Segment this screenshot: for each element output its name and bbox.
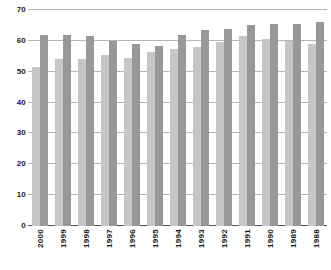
bar-series-2-1989 xyxy=(293,24,301,226)
x-tick-cell: 1989 xyxy=(281,229,304,270)
bar-group xyxy=(235,10,258,226)
x-tick-label: 1992 xyxy=(219,229,228,248)
bar-series-1-1992 xyxy=(216,42,224,226)
bar-series-2-1992 xyxy=(224,29,232,226)
y-tick-label: 60 xyxy=(2,37,26,45)
bar-group xyxy=(97,10,120,226)
y-tick-label: 30 xyxy=(2,129,26,137)
y-tick-label: 40 xyxy=(2,99,26,107)
x-tick-cell: 1988 xyxy=(304,229,327,270)
bar-series-1-1998 xyxy=(78,59,86,226)
bar-series-2-1991 xyxy=(247,25,255,226)
bar-group xyxy=(258,10,281,226)
x-tick-cell: 1999 xyxy=(51,229,74,270)
bar-series-1-1996 xyxy=(124,58,132,226)
x-tick-label: 1998 xyxy=(81,229,90,248)
bar-chart: 010203040506070 200019991998199719961995… xyxy=(0,0,331,270)
bar-series-2-1995 xyxy=(155,46,163,227)
bar-group xyxy=(166,10,189,226)
x-tick-cell: 1994 xyxy=(166,229,189,270)
bar-group xyxy=(28,10,51,226)
x-tick-cell: 1995 xyxy=(143,229,166,270)
y-tick-label: 20 xyxy=(2,160,26,168)
plot-area xyxy=(28,10,327,226)
x-tick-cell: 1990 xyxy=(258,229,281,270)
x-tick-cell: 1997 xyxy=(97,229,120,270)
bar-group xyxy=(281,10,304,226)
y-tick-label: 10 xyxy=(2,191,26,199)
bar-series-1-1993 xyxy=(193,47,201,226)
bar-group xyxy=(143,10,166,226)
bar-series-1-1991 xyxy=(239,36,247,226)
bar-series-2-1990 xyxy=(270,24,278,226)
bar-series-2-2000 xyxy=(40,35,48,226)
y-tick-label: 50 xyxy=(2,68,26,76)
bar-series-2-1996 xyxy=(132,44,140,226)
x-tick-label: 1997 xyxy=(104,229,113,248)
bar-series-1-1997 xyxy=(101,55,109,226)
x-tick-cell: 1996 xyxy=(120,229,143,270)
bar-series-1-1999 xyxy=(55,59,63,226)
x-tick-cell: 1993 xyxy=(189,229,212,270)
bar-group xyxy=(212,10,235,226)
x-tick-cell: 2000 xyxy=(28,229,51,270)
bar-group xyxy=(74,10,97,226)
x-tick-label: 1994 xyxy=(173,229,182,248)
bar-series-2-1993 xyxy=(201,30,209,226)
x-axis-labels: 2000199919981997199619951994199319921991… xyxy=(28,229,327,270)
y-axis: 010203040506070 xyxy=(0,10,26,226)
bar-series-1-1988 xyxy=(308,44,316,226)
bar-series-1-2000 xyxy=(32,67,40,226)
bar-series-2-1999 xyxy=(63,35,71,226)
bar-series-2-1988 xyxy=(316,22,324,226)
bar-group xyxy=(304,10,327,226)
bar-series-1-1990 xyxy=(262,39,270,226)
x-tick-label: 1996 xyxy=(127,229,136,248)
bar-group xyxy=(120,10,143,226)
x-tick-label: 1988 xyxy=(311,229,320,248)
bar-series-1-1994 xyxy=(170,49,178,226)
x-tick-cell: 1992 xyxy=(212,229,235,270)
x-tick-label: 2000 xyxy=(35,229,44,248)
bar-series-1-1989 xyxy=(285,41,293,226)
x-tick-label: 1989 xyxy=(288,229,297,248)
x-tick-label: 1995 xyxy=(150,229,159,248)
bars-layer xyxy=(28,10,327,226)
x-tick-cell: 1998 xyxy=(74,229,97,270)
x-tick-label: 1999 xyxy=(58,229,67,248)
bar-series-2-1997 xyxy=(109,41,117,226)
bar-group xyxy=(51,10,74,226)
y-tick-label: 0 xyxy=(2,222,26,230)
bar-series-2-1994 xyxy=(178,35,186,226)
y-tick-label: 70 xyxy=(2,6,26,14)
x-tick-label: 1990 xyxy=(265,229,274,248)
bar-series-1-1995 xyxy=(147,52,155,226)
x-tick-cell: 1991 xyxy=(235,229,258,270)
x-tick-label: 1993 xyxy=(196,229,205,248)
bar-group xyxy=(189,10,212,226)
x-tick-label: 1991 xyxy=(242,229,251,248)
bar-series-2-1998 xyxy=(86,36,94,226)
